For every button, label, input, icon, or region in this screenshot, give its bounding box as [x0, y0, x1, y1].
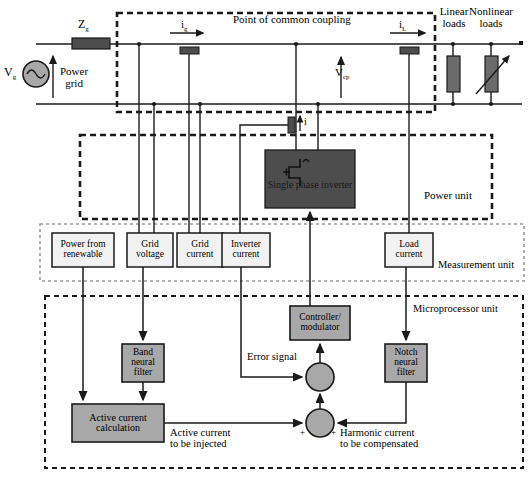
microprocessor-unit-label: Microprocessor unit [413, 303, 498, 314]
measure-label-inverter-current: Invertercurrent [222, 233, 270, 267]
nonlinear-load-block [485, 56, 498, 92]
diagram-canvas: Vg Zg Powergrid Point of common coupling… [0, 0, 530, 482]
error-summing-junction [306, 363, 334, 391]
measure-label-grid-current: Gridcurrent [177, 233, 223, 267]
grid-current-label: ig [181, 19, 188, 34]
power-grid-label: Powergrid [60, 66, 88, 89]
measure-label-power-from-renewable: Power fromrenewable [52, 233, 114, 267]
pcc-label: Point of common coupling [233, 14, 351, 26]
measure-label-grid-voltage: Gridvoltage [127, 233, 173, 267]
nonlinear-loads-label: Nonlinearloads [461, 6, 521, 29]
node-nonlinear-load-top [489, 42, 493, 46]
active-current-injected-label: Active currentto be injected [170, 427, 230, 449]
pcc-voltage-label: Vcp [335, 67, 350, 82]
sum-plus-right-sign: + [331, 428, 336, 437]
error-signal-label: Error signal [247, 351, 297, 362]
grid-current-sensor [180, 47, 199, 54]
measure-label-load-current: Loadcurrent [385, 233, 433, 267]
load-current-label: iL [399, 19, 406, 34]
load-current-sensor [400, 47, 419, 54]
node-nonlinear-load-bottom [489, 102, 493, 106]
impedance-label: Zg [78, 18, 89, 34]
notch-neural-filter-label: Notchneuralfilter [385, 344, 427, 382]
inverter-current-label: i [304, 117, 307, 128]
node-linear-load-bottom [451, 102, 455, 106]
pcc-boundary [117, 13, 435, 112]
bus-end-dot [519, 41, 523, 45]
measurement-unit-label: Measurement unit [438, 259, 514, 270]
band-neural-filter-label: Bandneuralfilter [122, 344, 164, 382]
source-label: Vg [4, 66, 16, 82]
node-linear-load-top [451, 42, 455, 46]
controller-modulator-label: Controller/modulator [290, 306, 350, 340]
reference-summing-junction [306, 409, 334, 437]
sum-plus-left-sign: + [300, 428, 305, 437]
active-current-calculation-label: Active currentcalculation [72, 404, 164, 442]
power-unit-label: Power unit [424, 190, 472, 202]
harmonic-current-compensated-label: Harmonic currentto be compensated [340, 427, 418, 449]
grid-impedance-block [72, 38, 110, 49]
inverter-current-sensor [288, 117, 295, 133]
linear-load-block [447, 56, 460, 92]
notchfilter-to-sum-junction-line [338, 382, 406, 423]
inverter-block-label: Single phase inverter [265, 176, 355, 194]
